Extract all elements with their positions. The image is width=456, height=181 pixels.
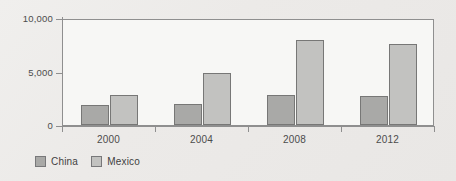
y-axis-tick-label: 10,000 [0,13,53,24]
bar-mexico-2008 [296,40,324,125]
legend-label-china: China [51,156,78,167]
legend-swatch-china-icon [35,156,46,167]
bar-mexico-2004 [203,73,231,125]
legend-entry-mexico: Mexico [91,156,140,167]
legend-swatch-mexico-icon [91,156,102,167]
bar-china-2012 [360,96,388,125]
plot-area [62,19,434,126]
chart-legend: China Mexico [35,156,140,167]
bar-china-2000 [81,105,109,125]
bar-china-2008 [267,95,295,125]
x-axis-tick-label: 2000 [79,134,139,145]
bar-china-2004 [174,104,202,125]
x-axis-tick-label: 2008 [265,134,325,145]
bar-chart-figure: 05,00010,000 2000200420082012 China Mexi… [0,0,456,181]
y-axis-tick-mark [56,19,63,20]
x-axis-tick-label: 2004 [172,134,232,145]
bars-layer [63,20,433,125]
y-axis-tick-label: 0 [0,120,53,131]
bar-mexico-2012 [389,44,417,125]
legend-label-mexico: Mexico [107,156,140,167]
legend-entry-china: China [35,156,78,167]
x-axis-tick-mark [155,126,156,132]
bar-mexico-2000 [110,95,138,125]
y-axis-tick-mark [56,73,63,74]
y-axis-tick-label: 5,000 [0,67,53,78]
x-axis-tick-mark [434,126,435,132]
x-axis-tick-mark [62,126,63,132]
x-axis-tick-label: 2012 [358,134,418,145]
x-axis-tick-mark [341,126,342,132]
x-axis-tick-mark [248,126,249,132]
